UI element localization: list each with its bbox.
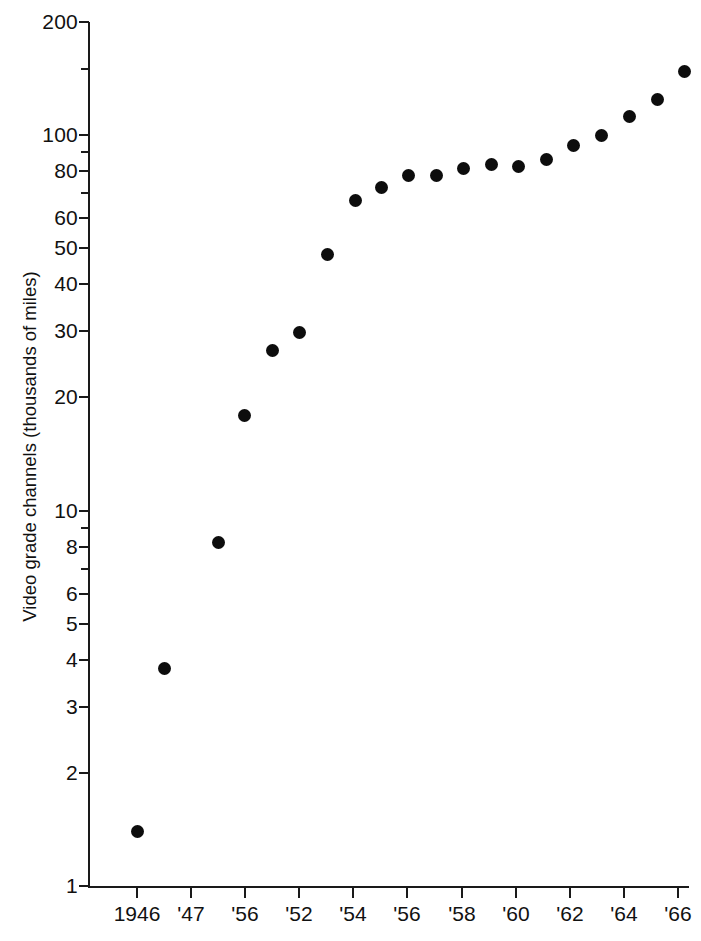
x-axis-tick-label: '56: [231, 903, 258, 925]
y-axis-minor-tick: [81, 568, 89, 570]
x-axis-tick-label: '66: [664, 903, 691, 925]
y-axis-tick: [79, 772, 89, 774]
x-axis-tick-label: '54: [339, 903, 366, 925]
x-axis-tick: [461, 887, 463, 898]
x-axis-tick-label: '52: [285, 903, 312, 925]
y-axis-tick: [79, 396, 89, 398]
x-axis-tick-label: '47: [177, 903, 204, 925]
y-axis-tick: [79, 659, 89, 661]
data-point: [595, 129, 608, 142]
data-point: [266, 344, 279, 357]
data-point: [131, 825, 144, 838]
y-axis-tick: [79, 623, 89, 625]
y-axis-tick: [79, 706, 89, 708]
x-axis-tick-label: '64: [610, 903, 637, 925]
y-axis-tick-label: 200: [20, 11, 78, 32]
data-point: [457, 162, 470, 175]
data-point: [321, 248, 334, 261]
y-axis-tick-label: 80: [20, 160, 78, 181]
data-point: [402, 169, 415, 182]
x-axis-line: [88, 886, 689, 888]
y-axis-tick: [79, 283, 89, 285]
data-point: [651, 93, 664, 106]
data-point: [678, 65, 691, 78]
x-axis-tick: [136, 887, 138, 898]
y-axis-tick-label: 1: [20, 875, 78, 896]
data-point: [212, 536, 225, 549]
y-axis-minor-tick: [81, 192, 89, 194]
y-axis-tick: [79, 21, 89, 23]
x-axis-tick: [406, 887, 408, 898]
y-axis-tick: [79, 546, 89, 548]
y-axis-tick: [79, 217, 89, 219]
x-axis-tick: [515, 887, 517, 898]
x-axis-tick: [352, 887, 354, 898]
data-point: [512, 160, 525, 173]
x-axis-tick-label: 1946: [114, 903, 161, 925]
data-point: [540, 153, 553, 166]
y-axis-tick: [79, 134, 89, 136]
y-axis-tick: [79, 247, 89, 249]
y-axis-tick: [79, 510, 89, 512]
x-axis-tick: [298, 887, 300, 898]
data-point: [158, 662, 171, 675]
data-point: [430, 169, 443, 182]
x-axis-tick-label: '60: [502, 903, 529, 925]
data-point: [293, 326, 306, 339]
x-axis-tick-label: '58: [448, 903, 475, 925]
y-axis-minor-tick: [81, 527, 89, 529]
x-axis-tick: [190, 887, 192, 898]
chart-canvas: 200100806050403020108654321 1946'47'56'5…: [0, 0, 701, 941]
y-axis-minor-tick: [81, 68, 89, 70]
y-axis-tick: [79, 885, 89, 887]
y-axis-tick: [79, 170, 89, 172]
y-axis-tick-label: 2: [20, 762, 78, 783]
data-point: [375, 181, 388, 194]
y-axis-tick: [79, 593, 89, 595]
y-axis-minor-tick: [81, 151, 89, 153]
x-axis-tick: [569, 887, 571, 898]
data-point: [238, 409, 251, 422]
data-point: [485, 158, 498, 171]
data-point: [567, 139, 580, 152]
x-axis-tick-label: '62: [556, 903, 583, 925]
x-axis-tick-label: '56: [393, 903, 420, 925]
y-axis-tick: [79, 330, 89, 332]
x-axis-tick: [677, 887, 679, 898]
data-point: [623, 110, 636, 123]
x-axis-tick: [244, 887, 246, 898]
x-axis-tick: [623, 887, 625, 898]
y-axis-title: Video grade channels (thousands of miles…: [20, 187, 39, 707]
y-axis-tick-label: 100: [20, 124, 78, 145]
data-point: [349, 194, 362, 207]
